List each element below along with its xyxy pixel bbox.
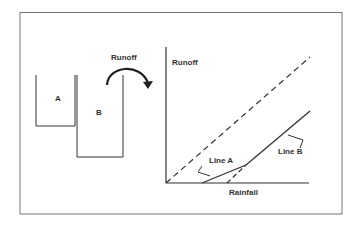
line-a-pointer bbox=[198, 166, 210, 176]
diagram-canvas bbox=[0, 0, 359, 225]
line-b bbox=[246, 111, 310, 165]
dashed-reference-line bbox=[166, 57, 310, 183]
line-b-dashed-extension bbox=[227, 165, 246, 183]
line-a-label: Line A bbox=[209, 157, 233, 165]
outer-frame bbox=[20, 13, 342, 215]
container-b-label: B bbox=[96, 109, 102, 117]
runoff-arrow-icon bbox=[107, 69, 148, 85]
container-a-label: A bbox=[55, 95, 61, 103]
x-axis-label: Rainfall bbox=[229, 189, 258, 197]
line-b-label: Line B bbox=[278, 148, 302, 156]
overflow-runoff-label: Runoff bbox=[111, 54, 137, 62]
line-a bbox=[202, 165, 246, 183]
y-axis-label: Runoff bbox=[172, 59, 198, 67]
arrowhead-icon bbox=[143, 81, 153, 89]
